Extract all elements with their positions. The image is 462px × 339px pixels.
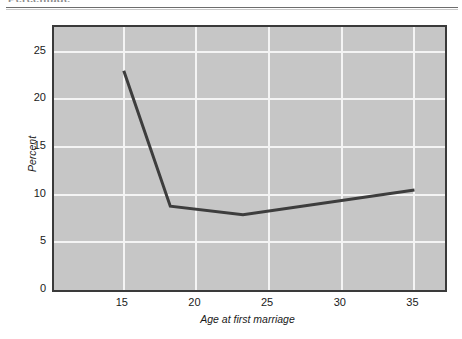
y-axis-title: Percent (26, 114, 38, 194)
header-rule-shadow (6, 9, 458, 10)
x-tick-label: 15 (102, 296, 142, 308)
line-series-percent (124, 71, 415, 215)
x-tick-label: 25 (247, 296, 287, 308)
cropped-header-text: Percentage (8, 0, 70, 2)
x-tick-label: 35 (392, 296, 432, 308)
plot-inner (54, 27, 445, 290)
x-axis-title: Age at first marriage (52, 313, 443, 325)
chart-figure: Percentage 0510152025 1520253035 Percent… (0, 0, 462, 339)
data-series-layer (54, 27, 445, 290)
plot-area (52, 25, 447, 292)
header-rule (6, 7, 458, 8)
y-tick-label: 0 (12, 282, 46, 294)
y-tick-label: 5 (12, 234, 46, 246)
x-axis-tick-labels: 1520253035 (52, 296, 443, 312)
y-tick-label: 20 (12, 91, 46, 103)
y-tick-label: 25 (12, 44, 46, 56)
x-tick-label: 30 (320, 296, 360, 308)
x-tick-label: 20 (174, 296, 214, 308)
